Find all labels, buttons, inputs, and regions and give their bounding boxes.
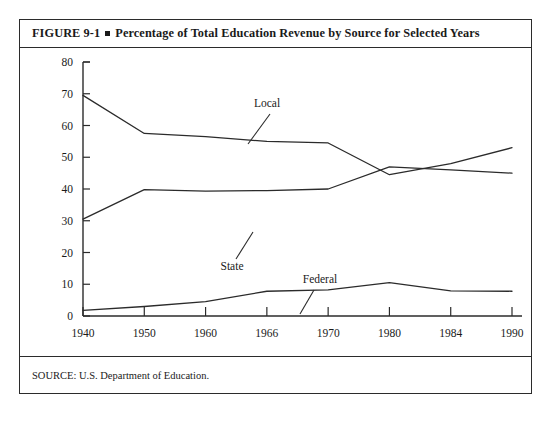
caption-bullet-icon [105,31,110,36]
x-axis-tick-label: 1990 [501,327,524,339]
figure-number: FIGURE 9-1 [32,26,100,40]
series-leader-federal [300,290,314,314]
series-label-federal: Federal [303,273,337,285]
y-axis-tick-label: 40 [62,183,74,195]
series-label-local: Local [254,97,280,109]
figure-caption: FIGURE 9-1Percentage of Total Education … [20,26,480,41]
y-axis-tick-label: 30 [62,215,74,227]
x-axis-tick-label: 1980 [378,327,401,339]
source-bar: SOURCE: U.S. Department of Education. [20,356,531,393]
y-axis-tick-label: 10 [62,278,74,290]
source-note: SOURCE: U.S. Department of Education. [20,370,209,381]
y-axis-tick-label: 60 [62,120,74,132]
series-line-local [83,95,512,174]
x-axis-tick-label: 1984 [439,327,462,339]
series-line-federal [83,283,512,311]
chart-plot-area: 01020304050607080 1940195019601966197019… [20,48,531,358]
series-leader-state [236,232,253,259]
x-axis: 19401950196019661970198019841990 [72,307,524,339]
x-axis-tick-label: 1960 [194,327,217,339]
series-label-state: State [221,260,244,272]
x-axis-tick-label: 1970 [317,327,340,339]
chart-annotations: LocalStateFederal [221,97,338,314]
figure-title: Percentage of Total Education Revenue by… [115,26,479,40]
x-axis-tick-label: 1966 [255,327,278,339]
y-axis-tick-label: 50 [62,151,74,163]
x-axis-tick-label: 1950 [133,327,156,339]
y-axis-tick-label: 70 [62,88,74,100]
series-line-state [83,167,512,219]
chart-series-group [83,95,512,310]
figure-caption-bar: FIGURE 9-1Percentage of Total Education … [20,20,531,48]
line-chart: 01020304050607080 1940195019601966197019… [20,48,530,358]
x-axis-tick-label: 1940 [72,327,95,339]
y-axis: 01020304050607080 [62,56,91,322]
y-axis-tick-label: 20 [62,247,74,259]
y-axis-tick-label: 0 [67,310,73,322]
figure-box: FIGURE 9-1Percentage of Total Education … [19,19,532,394]
y-axis-tick-label: 80 [62,56,74,68]
series-leader-local [248,114,270,144]
